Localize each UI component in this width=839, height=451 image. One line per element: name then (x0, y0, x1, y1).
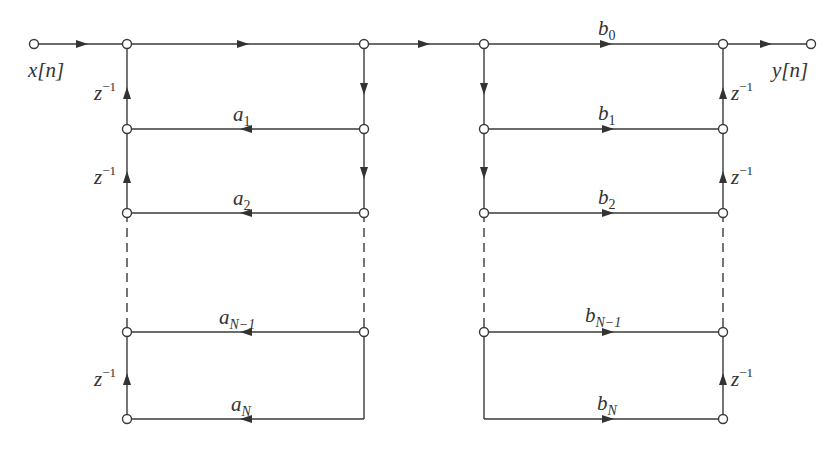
arrow-up-icon (719, 373, 727, 385)
arrow-up-icon (123, 87, 131, 99)
node (360, 328, 369, 337)
coefficient-b2: b2 (598, 185, 616, 212)
coefficient-a2: a2 (233, 186, 251, 213)
node (123, 125, 132, 134)
node (719, 415, 728, 424)
arrow-down-icon (480, 167, 488, 179)
coefficient-aN: aN (231, 392, 252, 419)
delay-label: z−1 (93, 79, 116, 105)
coefficient-bN-1: bN−1 (585, 303, 621, 330)
node (719, 125, 728, 134)
input-node (30, 40, 39, 49)
delay-label: z−1 (93, 163, 116, 189)
node (123, 209, 132, 218)
node (480, 209, 489, 218)
node (719, 328, 728, 337)
coefficient-b1: b1 (598, 101, 616, 128)
delay-label: z−1 (730, 365, 753, 391)
arrow-right-icon (76, 40, 88, 48)
arrow-down-icon (480, 83, 488, 95)
arrow-down-icon (360, 167, 368, 179)
node (123, 328, 132, 337)
coefficient-a1: a1 (233, 102, 251, 129)
arrow-right-icon (760, 40, 772, 48)
arrow-up-icon (123, 373, 131, 385)
node (360, 209, 369, 218)
node (360, 40, 369, 49)
node (123, 415, 132, 424)
coefficient-aN-1: aN−1 (219, 305, 255, 332)
output-label: y[n] (770, 58, 808, 82)
delay-label: z−1 (730, 79, 753, 105)
delay-label: z−1 (730, 163, 753, 189)
arrow-up-icon (719, 87, 727, 99)
output-node (807, 40, 816, 49)
signal-flow-diagram: x[n] y[n] z−1 z−1 z−1 z−1 z−1 z−1 a1 a2 … (0, 0, 839, 451)
arrow-right-icon (237, 40, 249, 48)
delay-label: z−1 (93, 365, 116, 391)
arrow-up-icon (719, 171, 727, 183)
arrow-up-icon (123, 171, 131, 183)
coefficient-bN: bN (597, 391, 618, 418)
node (123, 40, 132, 49)
node (480, 328, 489, 337)
input-label: x[n] (27, 58, 64, 82)
node (480, 125, 489, 134)
arrow-down-icon (360, 83, 368, 95)
node (360, 125, 369, 134)
coefficient-b0: b0 (598, 16, 616, 43)
node (719, 40, 728, 49)
node (480, 40, 489, 49)
node (719, 209, 728, 218)
arrow-right-icon (418, 40, 430, 48)
